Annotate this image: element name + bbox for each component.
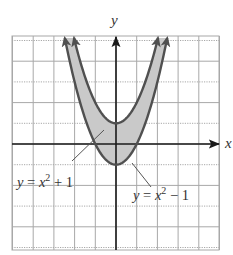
y-axis-label: y (109, 12, 118, 28)
label-upper-curve: y = x2 + 1 (15, 172, 73, 190)
x-axis-label: x (224, 135, 232, 151)
label-lower-curve: y = x2 − 1 (131, 185, 189, 203)
graph-figure: y x y = x2 + 1 y = x2 − 1 (0, 0, 233, 255)
leader-line-lower (132, 163, 151, 187)
